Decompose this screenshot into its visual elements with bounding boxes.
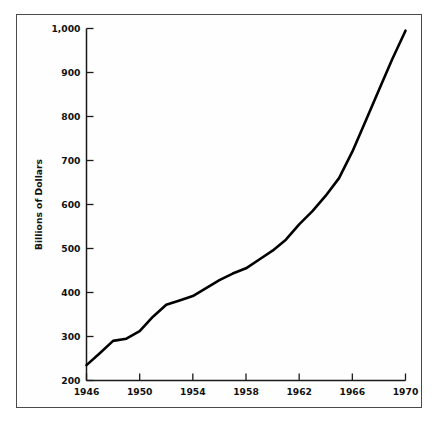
data-series-line <box>87 31 406 365</box>
line-chart: 2003004005006007008009001,000 1946195019… <box>0 0 438 427</box>
y-tick-label: 400 <box>61 287 80 298</box>
y-axis-tick-labels: 2003004005006007008009001,000 <box>51 23 80 386</box>
y-tick-label: 500 <box>61 243 80 254</box>
x-tick-label: 1958 <box>233 386 259 397</box>
y-tick-label: 600 <box>61 199 80 210</box>
y-tick-label: 700 <box>61 155 80 166</box>
chart-figure: 2003004005006007008009001,000 1946195019… <box>0 0 438 427</box>
y-tick-label: 200 <box>61 375 80 386</box>
x-tick-label: 1966 <box>340 386 366 397</box>
y-tick-label: 300 <box>61 331 80 342</box>
y-axis-title: Billions of Dollars <box>33 158 44 250</box>
x-tick-label: 1946 <box>74 386 100 397</box>
x-axis-tick-labels: 1946195019541958196219661970 <box>74 386 419 397</box>
x-tick-label: 1954 <box>180 386 206 397</box>
y-tick-label: 1,000 <box>51 23 80 34</box>
x-tick-label: 1962 <box>286 386 312 397</box>
y-tick-label: 900 <box>61 67 80 78</box>
x-tick-label: 1950 <box>127 386 153 397</box>
x-axis-tick-marks <box>87 374 406 381</box>
y-tick-label: 800 <box>61 111 80 122</box>
x-tick-label: 1970 <box>393 386 419 397</box>
y-axis-tick-marks <box>87 29 94 381</box>
